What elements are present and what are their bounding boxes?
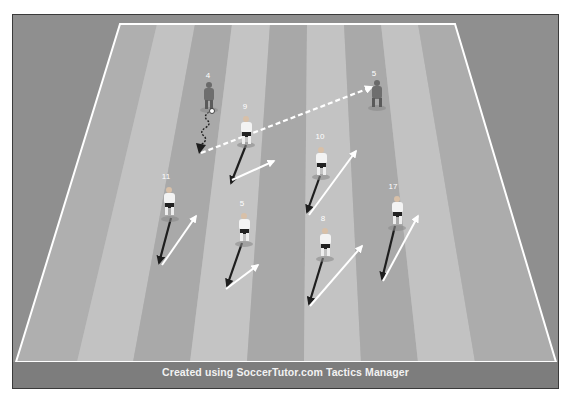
footer-credit: Created using SoccerTutor.com Tactics Ma… [12,366,559,378]
player-number: 5 [372,69,377,78]
pitch-diagram: 4 5 9 10 11 [0,0,571,401]
player-number: 5 [240,199,245,208]
player-number: 9 [243,102,248,111]
player-number: 4 [206,71,211,80]
player-number: 10 [316,132,325,141]
ball-icon [210,109,215,114]
player-number: 11 [162,172,171,181]
player-number: 17 [389,182,398,191]
player-number: 8 [321,214,326,223]
